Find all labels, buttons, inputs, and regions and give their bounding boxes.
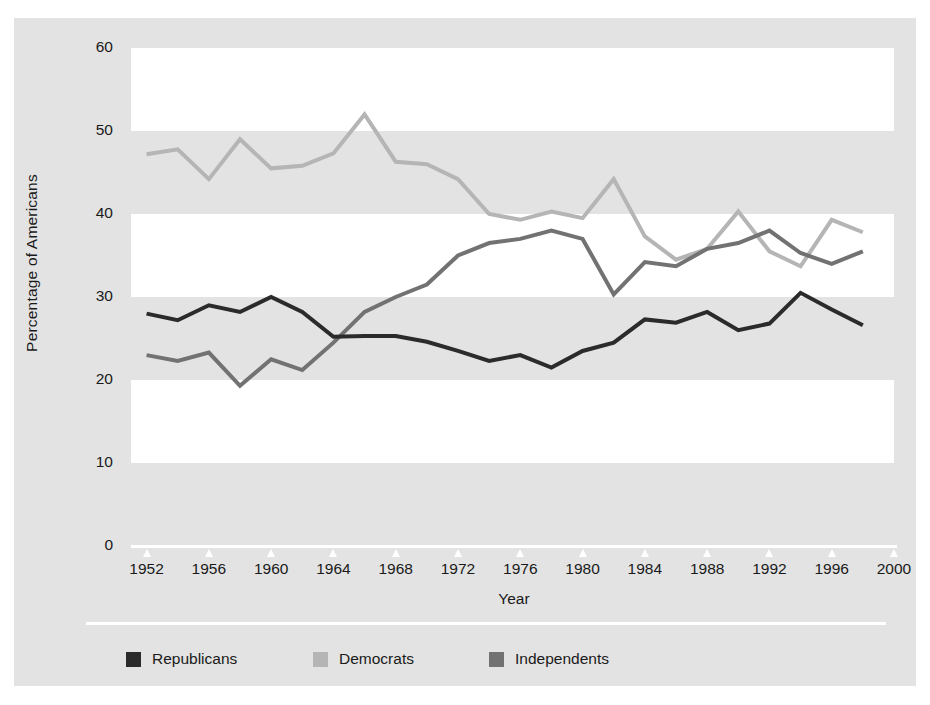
x-axis-tick-mark xyxy=(392,549,400,557)
legend-swatch-icon xyxy=(489,652,504,667)
x-axis-tick-mark xyxy=(890,549,898,557)
y-axis-tick-label: 50 xyxy=(73,121,113,139)
x-axis-tick-label: 1960 xyxy=(241,560,301,578)
x-axis-tick-label: 2000 xyxy=(864,560,924,578)
x-axis-tick-label: 1988 xyxy=(677,560,737,578)
legend-label: Independents xyxy=(515,650,609,668)
y-axis-title: Percentage of Americans xyxy=(23,63,41,463)
x-axis-tick-mark xyxy=(267,549,275,557)
x-axis-tick-mark xyxy=(641,549,649,557)
x-axis-tick-mark xyxy=(454,549,462,557)
legend-label: Republicans xyxy=(152,650,237,668)
y-axis-tick-label: 10 xyxy=(73,453,113,471)
legend-swatch-icon xyxy=(126,652,141,667)
y-axis-tick-label: 40 xyxy=(73,204,113,222)
chart-panel: Percentage of Americans 6050403020100 19… xyxy=(14,18,916,686)
chart-figure: Percentage of Americans 6050403020100 19… xyxy=(0,0,930,705)
chart-legend: RepublicansDemocratsIndependents xyxy=(86,644,886,674)
x-axis-line xyxy=(131,545,897,548)
series-line-independents xyxy=(147,231,863,386)
legend-divider xyxy=(86,622,886,625)
x-axis-tick-label: 1956 xyxy=(179,560,239,578)
x-axis-tick-label: 1972 xyxy=(428,560,488,578)
series-line-republicans xyxy=(147,293,863,368)
legend-swatch-icon xyxy=(313,652,328,667)
x-axis-tick-mark xyxy=(143,549,151,557)
legend-item-democrats[interactable]: Democrats xyxy=(313,650,414,668)
page-bleed-text xyxy=(0,0,930,12)
y-axis-tick-label: 30 xyxy=(73,287,113,305)
x-axis-title: Year xyxy=(131,590,897,608)
x-axis-tick-mark xyxy=(828,549,836,557)
x-axis-tick-mark xyxy=(205,549,213,557)
x-axis-tick-label: 1964 xyxy=(303,560,363,578)
legend-item-independents[interactable]: Independents xyxy=(489,650,609,668)
x-axis-tick-label: 1980 xyxy=(553,560,613,578)
legend-label: Democrats xyxy=(339,650,414,668)
legend-item-republicans[interactable]: Republicans xyxy=(126,650,237,668)
series-line-democrats xyxy=(147,114,863,266)
x-axis-tick-label: 1976 xyxy=(490,560,550,578)
x-axis-tick-label: 1952 xyxy=(117,560,177,578)
x-axis-tick-mark xyxy=(516,549,524,557)
y-axis-tick-label: 0 xyxy=(73,536,113,554)
y-axis-tick-label: 60 xyxy=(73,38,113,56)
x-axis-tick-label: 1984 xyxy=(615,560,675,578)
plot-area xyxy=(131,48,894,546)
x-axis-tick-label: 1996 xyxy=(802,560,862,578)
x-axis-tick-mark xyxy=(703,549,711,557)
x-axis-tick-mark xyxy=(579,549,587,557)
x-axis-tick-label: 1992 xyxy=(739,560,799,578)
y-axis-tick-label: 20 xyxy=(73,370,113,388)
x-axis-tick-mark xyxy=(765,549,773,557)
x-axis-tick-mark xyxy=(329,549,337,557)
data-lines-svg xyxy=(131,48,894,546)
x-axis-tick-label: 1968 xyxy=(366,560,426,578)
